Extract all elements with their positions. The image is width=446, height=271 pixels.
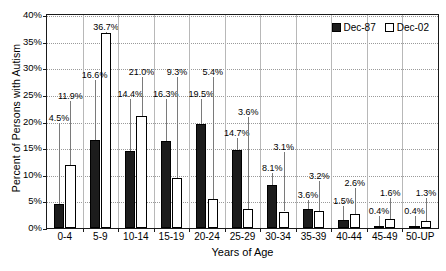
category-separator <box>225 15 226 228</box>
data-label-leader-line <box>343 206 344 220</box>
data-label-dec-02: 2.6% <box>345 179 366 188</box>
bar-dec-87 <box>374 226 384 228</box>
data-label-dec-87: 0.4% <box>404 207 425 216</box>
data-label-leader-line <box>272 173 273 185</box>
plot-inner: 4.5%11.9%16.6%36.7%14.4%21.0%16.3%9.3%19… <box>47 15 438 228</box>
y-axis-tick-label: 40% <box>8 10 42 20</box>
data-label-leader-line <box>106 32 107 33</box>
y-axis-tick-labels: 0%5%10%15%20%25%30%35%40% <box>8 0 42 271</box>
bar-dec-87 <box>409 226 419 228</box>
legend-entry-dec-02: Dec-02 <box>385 22 429 33</box>
data-label-dec-02: 9.3% <box>167 68 188 77</box>
bar-dec-02 <box>350 214 360 228</box>
bar-dec-02 <box>314 211 324 228</box>
y-axis-tick-label: 20% <box>8 117 42 127</box>
data-label-leader-line <box>415 216 416 226</box>
bar-dec-02 <box>101 33 111 228</box>
y-axis-tickmark <box>43 16 47 17</box>
data-label-leader-line <box>213 77 214 199</box>
y-axis-tick-label: 10% <box>8 170 42 180</box>
data-label-leader-line <box>308 200 309 209</box>
data-label-leader-line <box>426 198 427 221</box>
data-label-dec-87: 16.6% <box>82 71 108 80</box>
data-label-dec-02: 1.3% <box>416 189 437 198</box>
data-label-leader-line <box>390 198 391 220</box>
bar-dec-02 <box>172 178 182 228</box>
data-label-leader-line <box>379 216 380 226</box>
x-axis-tick-label: 5-9 <box>93 231 107 242</box>
bar-dec-87 <box>90 140 100 228</box>
data-label-leader-line <box>70 101 71 164</box>
data-label-dec-02: 21.0% <box>129 68 155 77</box>
bar-dec-02 <box>421 221 431 228</box>
legend-swatch-dec-02 <box>385 23 394 32</box>
bar-dec-87 <box>303 209 313 228</box>
data-label-dec-02: 3.6% <box>238 108 259 117</box>
bar-dec-87 <box>161 141 171 228</box>
data-label-dec-87: 14.4% <box>117 90 143 99</box>
x-axis-tick-label: 25-29 <box>230 231 256 242</box>
bar-dec-02 <box>243 209 253 228</box>
data-label-dec-02: 3.2% <box>309 172 330 181</box>
data-label-dec-87: 16.3% <box>153 90 179 99</box>
data-label-leader-line <box>355 188 356 214</box>
plot-area: 4.5%11.9%16.6%36.7%14.4%21.0%16.3%9.3%19… <box>46 14 439 229</box>
x-axis-tick-label: 50-UP <box>406 231 434 242</box>
bar-dec-87 <box>232 150 242 228</box>
y-axis-tick-label: 35% <box>8 37 42 47</box>
data-label-leader-line <box>237 138 238 149</box>
bar-dec-02 <box>385 219 395 228</box>
bar-dec-02 <box>136 116 146 228</box>
x-axis-tick-label: 30-34 <box>265 231 291 242</box>
legend-entry-dec-87: Dec-87 <box>332 22 376 33</box>
bar-dec-87 <box>125 151 135 228</box>
x-axis-tick-label: 10-14 <box>123 231 149 242</box>
data-label-leader-line <box>95 80 96 140</box>
legend-swatch-dec-87 <box>332 23 341 32</box>
data-label-leader-line <box>284 152 285 212</box>
legend-label-dec-87: Dec-87 <box>344 22 376 33</box>
data-label-dec-87: 0.4% <box>369 207 390 216</box>
y-axis-tick-label: 30% <box>8 63 42 73</box>
bar-chart: Percent of Persons with Autism 0%5%10%15… <box>0 0 446 271</box>
x-axis-tick-label: 0-4 <box>58 231 72 242</box>
data-label-leader-line <box>248 117 249 209</box>
data-label-leader-line <box>166 99 167 142</box>
data-label-leader-line <box>130 99 131 152</box>
x-axis-title: Years of Age <box>46 246 439 258</box>
x-axis-tick-label: 15-19 <box>159 231 185 242</box>
y-axis-tickmark <box>43 229 47 230</box>
bar-dec-87 <box>338 220 348 228</box>
data-label-dec-87: 4.5% <box>49 114 70 123</box>
data-label-dec-87: 3.6% <box>298 191 319 200</box>
bar-dec-87 <box>267 185 277 228</box>
bar-dec-87 <box>196 124 206 228</box>
chart-legend: Dec-87 Dec-02 <box>329 20 433 35</box>
y-axis-tick-label: 0% <box>8 223 42 233</box>
data-label-leader-line <box>59 123 60 205</box>
bar-dec-02 <box>279 212 289 229</box>
bar-dec-02 <box>65 165 75 228</box>
x-axis-tick-label: 40-44 <box>336 231 362 242</box>
data-label-dec-02: 11.9% <box>58 92 83 101</box>
y-axis-tickmark <box>43 43 47 44</box>
data-label-dec-02: 3.1% <box>273 143 294 152</box>
bar-dec-02 <box>208 199 218 228</box>
data-label-leader-line <box>201 99 202 125</box>
legend-label-dec-02: Dec-02 <box>397 22 429 33</box>
category-separator <box>118 15 119 228</box>
y-axis-tick-label: 5% <box>8 196 42 206</box>
data-label-dec-87: 14.7% <box>224 129 250 138</box>
data-label-dec-87: 8.1% <box>262 164 283 173</box>
data-label-leader-line <box>177 77 178 178</box>
y-axis-tick-label: 15% <box>8 143 42 153</box>
category-separator <box>154 15 155 228</box>
data-label-dec-02: 5.4% <box>202 68 223 77</box>
x-axis-tick-label: 20-24 <box>194 231 220 242</box>
data-label-dec-87: 19.5% <box>189 90 215 99</box>
x-axis-tick-labels: 0-45-910-1415-1920-2425-2930-3435-3940-4… <box>46 231 439 245</box>
y-axis-tickmark <box>43 96 47 97</box>
data-label-dec-87: 1.5% <box>333 197 354 206</box>
data-label-dec-02: 1.6% <box>380 189 401 198</box>
y-axis-tickmark <box>43 69 47 70</box>
